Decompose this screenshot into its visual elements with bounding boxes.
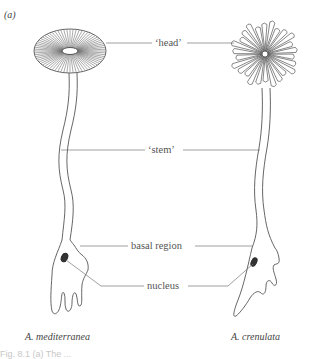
left-head-disc xyxy=(34,29,106,73)
panel-label: (a) xyxy=(4,9,16,20)
right-organism xyxy=(231,21,297,316)
species-left: A. mediterranea xyxy=(25,331,90,342)
label-head: ‘head’ xyxy=(152,37,185,49)
label-basal-region: basal region xyxy=(128,240,185,252)
left-organism xyxy=(34,29,106,314)
figure-caption-cut: Fig. 8.1 (a) The ... xyxy=(0,349,71,359)
nucleus-leader-left xyxy=(66,260,145,286)
label-stem: ‘stem’ xyxy=(145,144,178,156)
label-nucleus: nucleus xyxy=(144,280,182,292)
right-stem xyxy=(252,88,262,248)
species-right: A. crenulata xyxy=(231,331,280,342)
left-basal-region xyxy=(51,240,88,314)
left-stem xyxy=(59,73,69,240)
